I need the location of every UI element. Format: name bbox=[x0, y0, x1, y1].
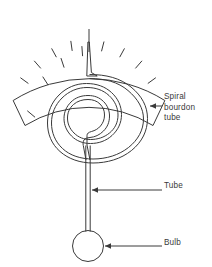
label-bulb: Bulb bbox=[164, 238, 181, 249]
leader-line-tube bbox=[92, 187, 162, 192]
dial-scale-arc bbox=[13, 79, 165, 126]
scale-tick bbox=[135, 61, 142, 69]
scale-tick bbox=[71, 41, 72, 51]
label-tube: Tube bbox=[164, 181, 183, 192]
scale-tick bbox=[102, 42, 105, 52]
bulb bbox=[73, 231, 104, 262]
pointer-needle bbox=[87, 42, 97, 76]
scale-tick bbox=[148, 78, 156, 84]
diagram-canvas: Spiral bourdon tube Tube Bulb bbox=[0, 0, 212, 267]
scale-tick bbox=[27, 111, 35, 118]
thermometer-diagram bbox=[0, 0, 212, 267]
leader-line-bulb bbox=[105, 243, 162, 248]
label-spiral-line-1: Spiral bbox=[164, 92, 195, 103]
label-spiral-line-3: tube bbox=[164, 113, 195, 124]
leader-line-spiral bbox=[150, 103, 162, 108]
label-spiral-line-2: bourdon bbox=[164, 103, 195, 114]
scale-tick bbox=[43, 77, 48, 85]
scale-tick bbox=[82, 46, 83, 56]
scale-tick bbox=[61, 58, 64, 68]
scale-tick bbox=[52, 48, 57, 57]
scale-tick bbox=[34, 61, 41, 69]
spiral-bourdon-tube bbox=[48, 75, 148, 164]
scale-tick bbox=[20, 78, 28, 84]
scale-tick bbox=[120, 48, 125, 57]
label-spiral-bourdon-tube: Spiral bourdon tube bbox=[164, 92, 195, 124]
